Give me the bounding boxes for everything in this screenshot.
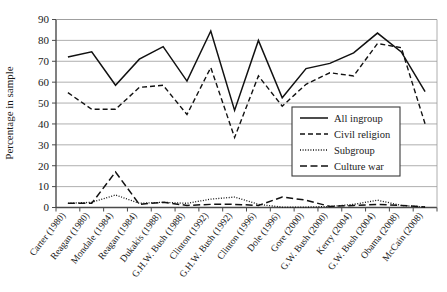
y-axis-tick-label: 20	[38, 160, 50, 172]
legend-label: Culture war	[334, 161, 384, 172]
y-axis-tick-label: 50	[38, 97, 50, 109]
legend-label: Civil religion	[334, 129, 391, 140]
y-axis-tick-label: 40	[38, 118, 50, 130]
legend-label: Subgroup	[334, 145, 375, 156]
line-chart: Percentage in sample 0102030405060708090…	[0, 0, 447, 292]
series-line	[68, 172, 425, 207]
y-axis-tick-label: 80	[38, 34, 50, 46]
chart-figure: Percentage in sample 0102030405060708090…	[0, 0, 447, 292]
series-line	[68, 31, 425, 110]
y-axis-title: Percentage in sample	[3, 66, 15, 160]
legend-label: All ingroup	[334, 113, 383, 124]
y-axis-tick-label: 60	[38, 76, 50, 88]
x-axis-tick-labels: Carter (1980)Reagan (1980)Mondale (1984)…	[27, 210, 426, 280]
y-axis-tick-labels: 0102030405060708090	[38, 13, 50, 213]
y-axis-tick-label: 0	[44, 201, 50, 213]
y-axis-tick-label: 30	[38, 139, 50, 151]
chart-legend: All ingroupCivil religionSubgroupCulture…	[292, 107, 400, 176]
y-axis-tick-label: 10	[38, 180, 50, 192]
y-axis-tick-label: 90	[38, 13, 50, 25]
y-axis-tick-label: 70	[38, 55, 50, 67]
